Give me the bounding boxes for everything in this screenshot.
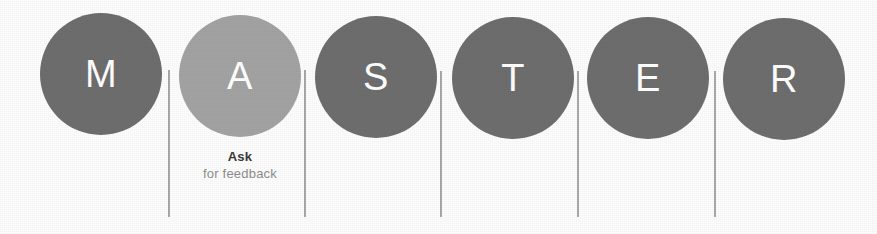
circle-e[interactable]: E [587, 17, 709, 139]
divider-line-4 [577, 71, 579, 217]
circle-letter-s: S [363, 58, 389, 96]
circle-letter-m: M [85, 55, 117, 93]
circle-letter-t: T [501, 59, 525, 97]
circle-letter-e: E [635, 59, 661, 97]
divider-line-3 [440, 71, 442, 217]
circle-t[interactable]: T [452, 17, 574, 139]
master-acronym-diagram: M A Ask for feedback S T E R [0, 0, 877, 234]
circle-m[interactable]: M [40, 13, 162, 135]
circle-r[interactable]: R [723, 18, 845, 140]
circle-letter-r: R [770, 60, 798, 98]
divider-line-1 [168, 70, 170, 217]
divider-line-2 [304, 70, 306, 217]
caption-a-subtitle: for feedback [150, 165, 330, 183]
caption-a-title: Ask [150, 149, 330, 165]
circle-letter-a: A [227, 57, 253, 95]
circle-s[interactable]: S [315, 16, 437, 138]
circle-a[interactable]: A [179, 15, 301, 137]
divider-line-5 [714, 71, 716, 217]
caption-a: Ask for feedback [150, 149, 330, 183]
